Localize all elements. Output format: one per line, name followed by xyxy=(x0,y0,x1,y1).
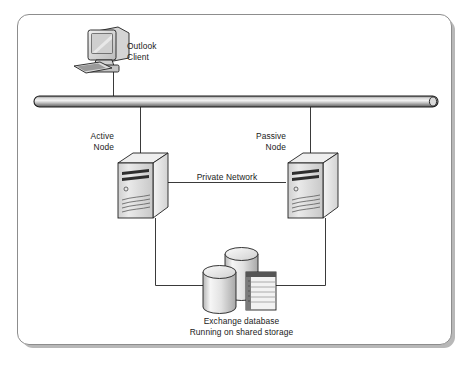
private-network-label: Private Network xyxy=(177,172,277,183)
table-document-icon xyxy=(246,272,276,310)
outlook-client-label-line1: Outlook xyxy=(127,41,157,52)
active-node-label-line2: Node xyxy=(74,142,114,153)
network-bus-icon xyxy=(34,96,438,107)
shared-storage-label-line1: Exchange database xyxy=(164,316,319,327)
diagram-canvas: Outlook Client Active Node Passive Node … xyxy=(0,0,472,367)
database-cylinder-icon-front xyxy=(203,266,236,314)
passive-node-label: Passive Node xyxy=(242,131,286,152)
active-node-label: Active Node xyxy=(74,131,114,152)
server-tower-icon-active xyxy=(118,153,168,218)
server-tower-icon-passive xyxy=(288,153,338,218)
outlook-client-label-line2: Client xyxy=(127,52,157,63)
shared-storage-label: Exchange database Running on shared stor… xyxy=(164,316,319,337)
passive-node-label-line2: Node xyxy=(242,142,286,153)
monitor-icon xyxy=(74,27,129,73)
diagram-graphics xyxy=(0,0,472,367)
passive-node-label-line1: Passive xyxy=(242,131,286,142)
shared-storage-label-line2: Running on shared storage xyxy=(164,327,319,338)
outlook-client-label: Outlook Client xyxy=(127,41,157,62)
line-passive-to-storage xyxy=(276,218,326,286)
shared-storage-icon xyxy=(203,248,276,314)
active-node-label-line1: Active xyxy=(74,131,114,142)
